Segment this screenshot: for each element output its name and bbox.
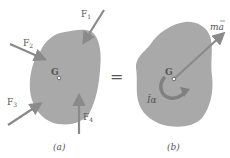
angular-label: Īα	[146, 94, 157, 105]
rigid-body-a	[30, 30, 101, 125]
rigid-body-equivalence-diagram: G F1 F2 F3 F4 (a) =	[0, 0, 230, 158]
force-f4-label: F4	[83, 112, 93, 123]
center-of-mass-b	[172, 77, 176, 81]
force-f2-label: F2	[23, 38, 33, 49]
force-f1-label: F1	[81, 9, 91, 20]
center-label-a: G	[51, 67, 59, 77]
panel-b: G ma Īα (b)	[136, 21, 225, 152]
linear-vector-label: ma	[210, 22, 224, 32]
panel-a: G F1 F2 F3 F4 (a)	[7, 9, 104, 152]
caption-b: (b)	[167, 142, 180, 152]
equals-sign: =	[110, 67, 123, 86]
force-f3-label: F3	[7, 97, 17, 108]
rigid-body-b	[136, 22, 213, 127]
center-label-b: G	[165, 67, 173, 77]
caption-a: (a)	[53, 142, 66, 152]
